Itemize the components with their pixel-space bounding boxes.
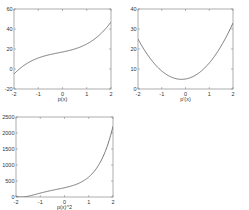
x-tick-label: 1 — [85, 91, 88, 97]
x-axis-label: p(x) — [58, 96, 68, 102]
y-tick-label: 20 — [6, 46, 12, 52]
x-tick-label: 2 — [111, 199, 114, 205]
y-tick-label: 10 — [130, 66, 136, 72]
x-axis-label: p(x)^2 — [57, 204, 72, 210]
y-tick-label: -20 — [5, 86, 13, 92]
y-tick-label: 40 — [130, 6, 136, 12]
y-tick-label: 1500 — [2, 146, 14, 152]
y-tick-label: 40 — [6, 26, 12, 32]
figure-background — [0, 0, 249, 210]
x-axis-label: p'(x) — [180, 96, 191, 102]
x-tick-label: 2 — [231, 91, 234, 97]
y-tick-label: 0 — [11, 194, 14, 200]
y-tick-label: 2000 — [2, 130, 14, 136]
figure: -2-1012-200204060p(x) -2-1012010203040p'… — [0, 0, 249, 210]
y-tick-label: 20 — [130, 46, 136, 52]
x-tick-label: -1 — [159, 91, 164, 97]
x-tick-label: 1 — [208, 91, 211, 97]
y-tick-label: 0 — [9, 66, 12, 72]
x-tick-label: 2 — [109, 91, 112, 97]
y-tick-label: 30 — [130, 26, 136, 32]
y-tick-label: 500 — [5, 178, 14, 184]
y-tick-label: 2500 — [2, 114, 14, 120]
y-tick-label: 1000 — [2, 162, 14, 168]
x-tick-label: 1 — [87, 199, 90, 205]
x-tick-label: -1 — [38, 199, 43, 205]
y-tick-label: 60 — [6, 6, 12, 12]
y-tick-label: 0 — [133, 86, 136, 92]
x-tick-label: -1 — [36, 91, 41, 97]
